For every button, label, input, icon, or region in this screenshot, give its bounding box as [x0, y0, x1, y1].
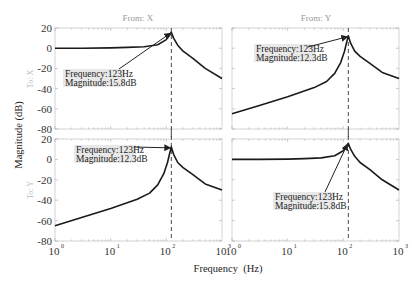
subplot-from-y-to-y: 100101102103Frequency:123HzMagnitude:15.… — [226, 129, 409, 257]
y-axis-label: Magnitude (dB) — [13, 101, 25, 169]
x-tick-exponent: 1 — [294, 243, 297, 249]
annotation-magnitude: Magnitude:15.8dB — [275, 201, 347, 211]
annotation-arrow — [119, 33, 170, 69]
y-tick-label: -60 — [37, 215, 52, 227]
x-tick-exponent: 1 — [117, 243, 120, 249]
subplot-from-x-to-y: 200-20-40-60-80100101102103Frequency:123… — [37, 129, 231, 257]
x-tick-exponent: 0 — [61, 243, 64, 249]
x-tick-label: 10 — [226, 245, 238, 257]
x-tick-exponent: 3 — [405, 243, 408, 249]
bode-magnitude-figure: From: X From: Y To: X To: Y Magnitude (d… — [0, 0, 418, 283]
y-tick-label: -60 — [37, 103, 52, 115]
x-tick-label: 10 — [104, 245, 116, 257]
subplot-from-y-to-x: Frequency:123HzMagnitude:12.3dB — [232, 28, 399, 139]
x-tick-exponent: 2 — [172, 243, 175, 249]
x-tick-label: 10 — [281, 245, 293, 257]
row-label-to-x: To: X — [26, 70, 35, 89]
y-tick-label: 0 — [47, 153, 53, 165]
x-tick-label: 10 — [337, 245, 349, 257]
subplot-grid: 200-20-40-60-80Frequency:123HzMagnitude:… — [37, 22, 408, 257]
y-tick-label: -20 — [37, 62, 52, 74]
x-tick-exponent: 0 — [238, 243, 241, 249]
y-tick-label: 20 — [41, 22, 53, 34]
annotation-arrow — [308, 37, 347, 47]
x-tick-label: 10 — [160, 245, 172, 257]
y-tick-label: -40 — [37, 83, 52, 95]
x-tick-exponent: 2 — [349, 243, 352, 249]
y-tick-label: -20 — [37, 174, 52, 186]
row-label-to-y: To: Y — [26, 181, 35, 199]
y-tick-label: 0 — [47, 42, 53, 54]
x-axis-label: Frequency (Hz) — [194, 263, 263, 275]
y-tick-label: 20 — [41, 133, 53, 145]
y-tick-label: -40 — [37, 194, 52, 206]
magnitude-curve — [232, 143, 399, 190]
annotation-arrow — [325, 144, 347, 192]
column-title-from-y: From: Y — [301, 13, 332, 23]
x-tick-label: 10 — [393, 245, 405, 257]
column-title-from-x: From: X — [123, 13, 154, 23]
annotation-magnitude: Magnitude:12.3dB — [76, 154, 148, 164]
subplot-from-x-to-x: 200-20-40-60-80Frequency:123HzMagnitude:… — [37, 22, 222, 139]
axes-frame — [232, 139, 399, 241]
x-tick-label: 10 — [49, 245, 61, 257]
annotation-magnitude: Magnitude:12.3dB — [256, 53, 328, 63]
annotation-magnitude: Magnitude:15.8dB — [65, 78, 137, 88]
